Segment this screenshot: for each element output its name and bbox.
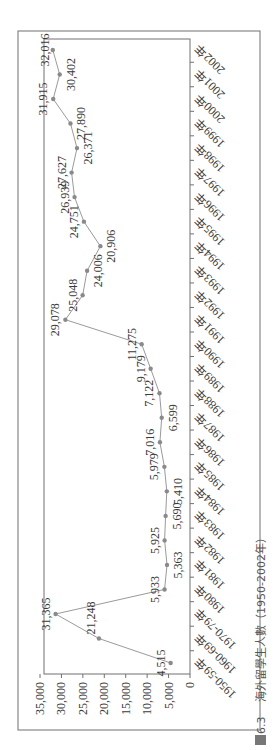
data-point-marker [165,563,169,567]
data-label: 32,016 [38,34,52,67]
y-tick-label: 0 [183,682,197,688]
x-axis: 1950-59年1960-69年1970-79年1980年1981年1982年1… [190,42,239,702]
figure-caption: 6.3 海外留學生人數（1950-2002年） [254,532,268,745]
data-label: 7,016 [143,429,157,456]
data-point-marker [69,170,73,174]
data-point-marker [72,195,76,199]
figure-title: 海外留學生人數（1950-2002年） [254,532,268,702]
data-point-marker [82,219,86,223]
data-label: 5,690 [170,502,184,529]
data-point-marker [162,465,166,469]
series-line [53,50,171,663]
data-point-marker [63,318,67,322]
y-tick-label: 5,000 [162,682,176,709]
data-label: 4,515 [154,650,168,677]
data-label: 30,402 [64,58,78,91]
data-labels: 4,51521,24831,3655,9335,3635,9255,6905,4… [36,34,185,677]
data-point-marker [53,612,57,616]
data-label: 11,275 [125,328,139,361]
line-chart: 05,00010,00015,00020,00025,00030,00035,0… [0,0,276,750]
data-label: 24,006 [91,254,105,287]
data-point-marker [160,416,164,420]
data-point-marker [80,293,84,297]
data-label: 20,906 [104,230,118,263]
rotated-figure: 05,00010,00015,00020,00025,00030,00035,0… [0,0,276,750]
data-point-marker [148,367,152,371]
figure-number: 6.3 [255,717,268,735]
y-tick-label: 20,000 [97,682,111,715]
data-point-marker [165,489,169,493]
data-label: 6,599 [166,404,180,431]
data-label: 5,925 [148,527,162,554]
data-label: 25,048 [66,279,80,312]
data-point-marker [98,244,102,248]
data-point-marker [97,636,101,640]
data-label: 5,410 [171,478,185,505]
data-point-marker [157,391,161,395]
data-point-marker [85,268,89,272]
plot-area [44,39,190,674]
data-label: 27,890 [74,107,88,140]
data-point-marker [168,661,172,665]
data-point-marker [139,342,143,346]
data-label: 7,122 [142,380,156,407]
y-axis: 05,00010,00015,00020,00025,00030,00035,0… [33,674,197,715]
data-point-marker [163,514,167,518]
data-label: 31,365 [39,597,53,630]
data-point-marker [158,440,162,444]
y-tick-label: 10,000 [140,682,154,715]
y-tick-label: 30,000 [54,682,68,715]
data-point-marker [58,72,62,76]
data-label: 5,979 [147,453,161,480]
y-tick-label: 15,000 [119,682,133,715]
data-point-marker [51,97,55,101]
y-tick-label: 25,000 [76,682,90,715]
data-label: 5,933 [148,576,162,603]
data-point-marker [162,538,166,542]
data-point-marker [75,146,79,150]
data-label: 27,627 [55,156,69,189]
data-label: 21,248 [84,601,98,634]
data-point-marker [68,121,72,125]
data-point-marker [162,587,166,591]
data-label: 5,363 [171,551,185,578]
data-markers [51,48,173,665]
y-tick-label: 35,000 [33,682,47,715]
data-label: 31,915 [36,83,50,116]
data-label: 29,078 [48,303,62,336]
figure-marker-icon [255,735,266,745]
